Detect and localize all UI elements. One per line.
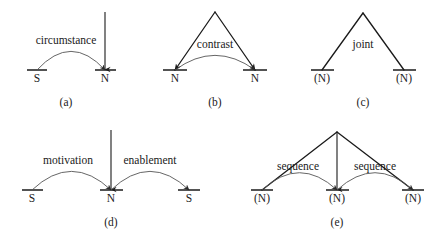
node-label-e-2: (N) (405, 192, 421, 204)
node-label-d-0: S (29, 192, 35, 204)
node-label-e-0: (N) (254, 192, 270, 204)
relation-label-a-0: circumstance (36, 34, 97, 46)
relation-label-d-1: enablement (123, 154, 176, 166)
relation-arc-e-0 (262, 173, 337, 190)
node-label-a-1: N (101, 72, 109, 84)
node-label-e-1: (N) (329, 192, 345, 204)
relation-arc-e-1 (337, 173, 413, 190)
subfigure-caption-d: (d) (104, 216, 117, 228)
node-label-d-1: N (107, 192, 115, 204)
subfigure-caption-b: (b) (208, 96, 221, 108)
relation-label-b-0: contrast (197, 38, 233, 50)
subfigure-caption-e: (e) (331, 216, 344, 228)
node-label-d-2: S (186, 192, 192, 204)
subfigure-caption-a: (a) (60, 96, 73, 108)
subfigure-caption-c: (c) (357, 96, 370, 108)
node-label-b-0: N (171, 72, 179, 84)
relation-label-d-0: motivation (43, 154, 93, 166)
relation-arc-a-0 (37, 51, 105, 70)
node-label-c-0: (N) (314, 72, 330, 84)
node-label-a-0: S (34, 72, 40, 84)
relation-arc-d-1 (111, 171, 189, 190)
node-label-b-1: N (251, 72, 259, 84)
relation-arc-d-0 (32, 171, 111, 190)
relation-label-e-0: sequence (277, 160, 319, 172)
relation-label-c-0: joint (352, 38, 373, 50)
relation-label-e-1: sequence (354, 160, 396, 172)
node-label-c-1: (N) (396, 72, 412, 84)
relation-arc-b-0 (175, 55, 255, 70)
